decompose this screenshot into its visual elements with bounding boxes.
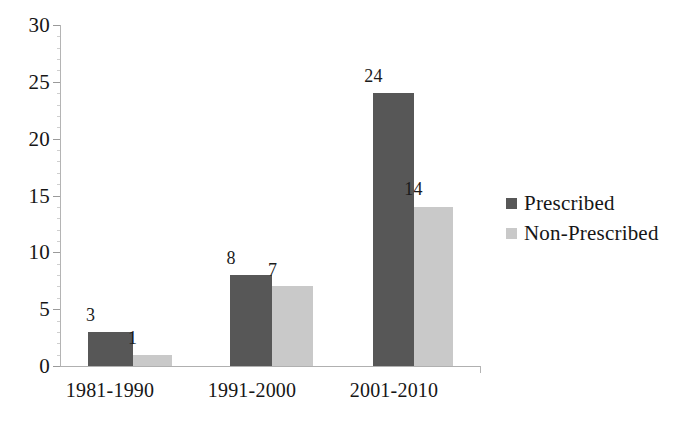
bar-prescribed-2001-2010 bbox=[373, 93, 414, 366]
x-axis-label-2001-2010: 2001-2010 bbox=[334, 379, 454, 401]
y-axis-label-30: 30 bbox=[4, 15, 50, 36]
y-tick-25 bbox=[53, 82, 60, 83]
legend-swatch-icon-prescribed bbox=[506, 198, 517, 209]
y-axis-label-0: 0 bbox=[4, 356, 50, 377]
bar-chart: 0 5 10 15 20 25 30 3 1 8 7 24 14 1981-19… bbox=[0, 0, 684, 421]
value-label-non-prescribed-1991-2000: 7 bbox=[252, 261, 293, 279]
legend-label-prescribed: Prescribed bbox=[524, 193, 615, 214]
x-axis-label-1981-1990: 1981-1990 bbox=[50, 379, 170, 401]
legend-swatch-icon-non-prescribed bbox=[506, 228, 517, 239]
value-label-prescribed-1981-1990: 3 bbox=[68, 306, 113, 324]
y-tick-15 bbox=[53, 196, 60, 197]
y-tick-10 bbox=[53, 252, 60, 253]
y-axis-label-5: 5 bbox=[4, 299, 50, 320]
legend-item-prescribed: Prescribed bbox=[506, 188, 659, 218]
bar-prescribed-1991-2000 bbox=[230, 275, 272, 366]
y-axis-label-25: 25 bbox=[4, 72, 50, 93]
y-axis-label-10: 10 bbox=[4, 242, 50, 263]
x-axis-end-tick bbox=[480, 366, 481, 373]
y-axis-label-15: 15 bbox=[4, 186, 50, 207]
y-tick-30 bbox=[53, 25, 60, 26]
legend: Prescribed Non-Prescribed bbox=[506, 188, 659, 248]
value-label-prescribed-1991-2000: 8 bbox=[210, 249, 252, 267]
y-tick-5 bbox=[53, 309, 60, 310]
x-axis-label-1991-2000: 1991-2000 bbox=[192, 379, 312, 401]
bar-non-prescribed-1981-1990 bbox=[133, 355, 172, 366]
bar-non-prescribed-1991-2000 bbox=[272, 286, 313, 366]
value-label-prescribed-2001-2010: 24 bbox=[353, 67, 394, 85]
y-axis-label-20: 20 bbox=[4, 129, 50, 150]
x-axis-line bbox=[60, 366, 481, 367]
legend-label-non-prescribed: Non-Prescribed bbox=[524, 223, 659, 244]
value-label-non-prescribed-1981-1990: 1 bbox=[113, 329, 152, 347]
y-tick-20 bbox=[53, 139, 60, 140]
value-label-non-prescribed-2001-2010: 14 bbox=[394, 180, 433, 198]
bar-non-prescribed-2001-2010 bbox=[414, 207, 453, 366]
legend-item-non-prescribed: Non-Prescribed bbox=[506, 218, 659, 248]
y-tick-0 bbox=[53, 366, 60, 367]
